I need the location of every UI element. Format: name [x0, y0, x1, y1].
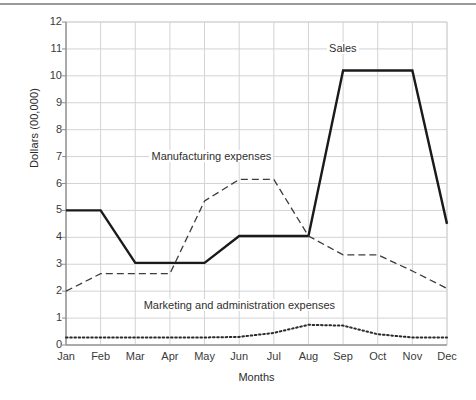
series-line-marketing-and-administration-expenses [66, 325, 447, 338]
series-line-sales [66, 70, 447, 262]
plot-area [0, 0, 476, 400]
series-annotation-label: Sales [327, 42, 359, 54]
series-annotation-label: Manufacturing expenses [149, 150, 273, 162]
line-chart: Dollars (00,000) Months 0123456789101112… [0, 0, 476, 400]
series-annotation-label: Marketing and administration expenses [142, 299, 337, 311]
